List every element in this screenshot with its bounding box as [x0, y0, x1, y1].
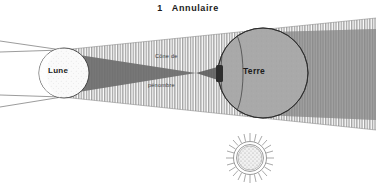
antumbra-contact-spot [216, 65, 223, 82]
sun-symbol [226, 133, 274, 183]
moon-body [39, 48, 89, 98]
eclipse-diagram-figure: 1Annulaire Lune Terre Cône de pénombre [0, 0, 376, 194]
eclipse-diagram-canvas [0, 0, 376, 194]
